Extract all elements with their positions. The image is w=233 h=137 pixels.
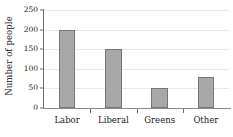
x-axis-tick-mark <box>137 109 138 113</box>
bar-series <box>44 10 229 108</box>
bar <box>198 77 215 108</box>
x-axis-tick-label: Greens <box>144 115 175 126</box>
bar <box>151 88 168 108</box>
bar <box>105 49 122 108</box>
x-axis-tick-label: Liberal <box>98 115 129 126</box>
y-axis-tick-labels: 050100150200250 <box>16 10 38 108</box>
y-axis-tick-label: 50 <box>16 85 38 93</box>
x-axis-tick-labels: LaborLiberalGreensOther <box>44 115 229 131</box>
y-axis-title-text: Number of people <box>4 16 14 96</box>
x-axis-tick-marks <box>44 109 229 113</box>
bar-chart-figure: Number of people 050100150200250 LaborLi… <box>0 0 233 137</box>
x-axis-tick-label: Labor <box>54 115 79 126</box>
bar <box>59 30 76 108</box>
y-axis-tick-label: 0 <box>16 104 38 112</box>
x-axis-tick-mark <box>183 109 184 113</box>
plot-area <box>44 10 229 108</box>
y-axis-tick-label: 100 <box>16 65 38 73</box>
y-axis-tick-label: 200 <box>16 26 38 34</box>
x-axis-tick-mark <box>90 109 91 113</box>
x-axis-tick-label: Other <box>193 115 218 126</box>
y-axis-tick-label: 150 <box>16 45 38 53</box>
y-axis-tick-label: 250 <box>16 6 38 14</box>
